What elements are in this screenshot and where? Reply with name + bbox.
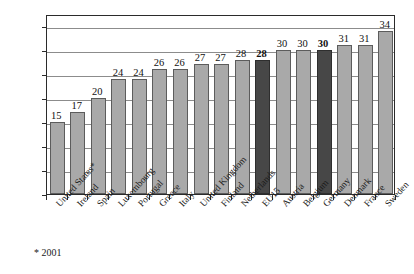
bar bbox=[337, 45, 352, 194]
bar bbox=[378, 31, 393, 194]
bar bbox=[111, 79, 126, 194]
bar bbox=[276, 50, 291, 194]
bar bbox=[194, 64, 209, 194]
bar-value-label: 24 bbox=[124, 67, 152, 78]
bar bbox=[317, 50, 332, 194]
bar bbox=[152, 69, 167, 194]
bar bbox=[173, 69, 188, 194]
chart-footnote: * 2001 bbox=[34, 247, 62, 258]
bar bbox=[91, 98, 106, 194]
bar-value-label: 28 bbox=[248, 48, 276, 59]
bar bbox=[50, 122, 65, 194]
gridline-35 bbox=[47, 28, 394, 29]
bar-value-label: 20 bbox=[83, 86, 111, 97]
bar-value-label: 15 bbox=[42, 110, 70, 121]
bar-value-label: 31 bbox=[350, 33, 378, 44]
bar-chart: 05101520253035 1517202424262627272828303… bbox=[0, 0, 414, 274]
bar-value-label: 34 bbox=[371, 19, 399, 30]
bar bbox=[358, 45, 373, 194]
bar bbox=[296, 50, 311, 194]
x-tick-mark bbox=[46, 195, 47, 200]
bar-value-label: 17 bbox=[63, 100, 91, 111]
